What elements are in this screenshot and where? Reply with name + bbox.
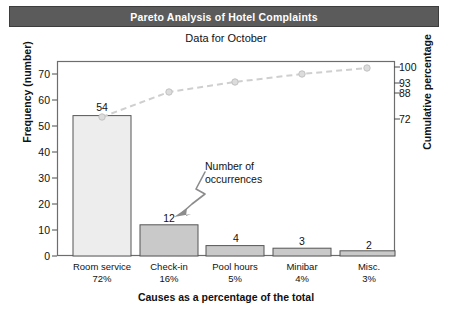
bar-pool-hours xyxy=(206,246,264,256)
pareto-chart-figure: Pareto Analysis of Hotel Complaints Data… xyxy=(0,0,452,315)
cumulative-point-3 xyxy=(299,71,305,77)
annotation-arrow xyxy=(174,172,205,217)
cumulative-point-0 xyxy=(99,114,105,120)
bar-misc xyxy=(340,251,395,256)
bar-check-in xyxy=(140,225,198,256)
cumulative-point-1 xyxy=(166,89,172,95)
y-axis-left-ticks xyxy=(52,74,57,256)
cumulative-percentage-line xyxy=(102,68,367,117)
cumulative-point-4 xyxy=(364,65,370,71)
bar-minibar xyxy=(273,248,331,256)
cumulative-point-2 xyxy=(232,79,238,85)
bar-room-service xyxy=(73,116,131,256)
plot-svg xyxy=(0,0,452,315)
